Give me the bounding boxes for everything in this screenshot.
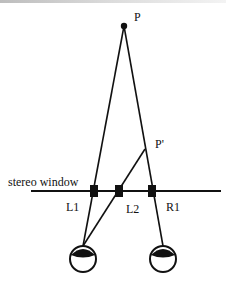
label-l2: L2 <box>126 202 139 216</box>
point-p-marker <box>121 23 127 29</box>
marker-l2 <box>115 185 123 197</box>
label-p: P <box>134 10 141 24</box>
label-r1: R1 <box>166 200 180 214</box>
marker-l1 <box>90 185 98 197</box>
marker-r1 <box>148 185 156 197</box>
stereo-diagram: P P' stereo window L1 L2 R1 <box>0 0 226 282</box>
right-eye-icon <box>150 246 176 272</box>
label-stereo-window: stereo window <box>8 175 79 189</box>
label-l1: L1 <box>66 200 79 214</box>
left-eye-icon <box>70 246 96 272</box>
label-p-prime: P' <box>155 137 164 151</box>
